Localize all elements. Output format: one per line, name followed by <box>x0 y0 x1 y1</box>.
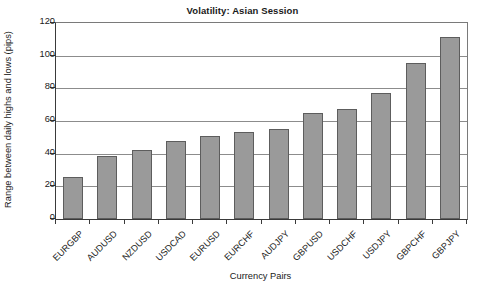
bar <box>371 93 391 219</box>
x-tick-label: USDJPY <box>330 229 394 291</box>
chart-title: Volatility: Asian Session <box>0 5 485 16</box>
bar <box>200 136 220 219</box>
x-tick-label: GBPJPY <box>398 229 462 291</box>
x-tick-label: AUDUSD <box>56 229 120 291</box>
y-tick-label: 120 <box>21 16 55 26</box>
x-tick-mark <box>192 219 193 224</box>
y-tick-label: 60 <box>21 114 55 124</box>
x-tick-label: AUDJPY <box>227 229 291 291</box>
plot-area <box>55 22 468 220</box>
y-tick-label: 20 <box>21 179 55 189</box>
bar <box>63 177 83 219</box>
bar <box>337 109 357 219</box>
bar-chart: Volatility: Asian Session Range between … <box>0 0 485 291</box>
x-axis-ticks <box>55 219 468 225</box>
x-tick-label: GBPUSD <box>261 229 325 291</box>
x-tick-mark <box>261 219 262 224</box>
x-tick-mark <box>432 219 433 224</box>
bar <box>440 37 460 219</box>
bar <box>303 113 323 219</box>
x-tick-mark <box>295 219 296 224</box>
x-tick-mark <box>329 219 330 224</box>
x-tick-mark <box>226 219 227 224</box>
x-tick-mark <box>158 219 159 224</box>
y-tick-label: 80 <box>21 81 55 91</box>
bar <box>166 141 186 219</box>
y-tick-label: 40 <box>21 147 55 157</box>
y-tick-label: 0 <box>21 212 55 222</box>
bar <box>406 63 426 219</box>
x-tick-mark <box>124 219 125 224</box>
bar <box>234 132 254 219</box>
x-tick-mark <box>89 219 90 224</box>
x-tick-label: USDCHF <box>296 229 360 291</box>
y-tick-label: 100 <box>21 49 55 59</box>
x-tick-label: USDCAD <box>124 229 188 291</box>
y-axis-ticks: 020406080100120 <box>0 22 55 218</box>
x-tick-label: NZDUSD <box>90 229 154 291</box>
x-tick-label: EURGBP <box>22 229 86 291</box>
gridline <box>56 56 467 57</box>
x-tick-mark <box>55 219 56 224</box>
x-tick-label: GBPCHF <box>364 229 428 291</box>
x-tick-mark <box>363 219 364 224</box>
bar <box>97 156 117 219</box>
x-axis-title: Currency Pairs <box>55 271 466 281</box>
bar <box>269 129 289 219</box>
bar <box>132 150 152 219</box>
x-tick-mark <box>466 219 467 224</box>
x-tick-mark <box>398 219 399 224</box>
x-tick-label: EURUSD <box>159 229 223 291</box>
x-tick-label: EURCHF <box>193 229 257 291</box>
